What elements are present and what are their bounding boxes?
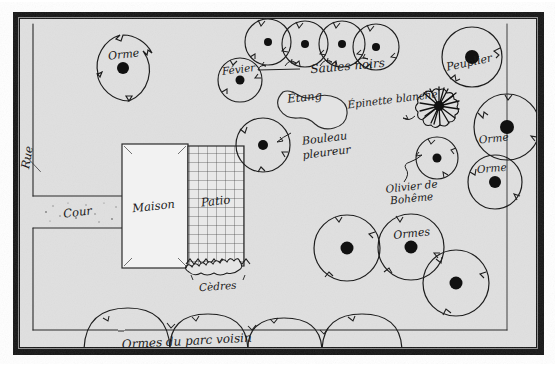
tree-trunk-dot	[433, 154, 442, 163]
maison: Maison	[122, 144, 188, 268]
tree-trunk-dot	[434, 101, 444, 111]
tree-trunk-dot	[450, 277, 463, 290]
tree-trunk-dot	[236, 76, 245, 85]
site-plan-page: Rue Cour Maison	[0, 0, 555, 369]
tree-trunk-dot	[264, 38, 272, 46]
tree-trunk-dot	[338, 40, 346, 48]
tree-trunk-dot	[258, 140, 268, 150]
tree-trunk-dot	[489, 176, 501, 188]
tree-trunk-dot	[341, 242, 354, 255]
tree-trunk-dot	[301, 40, 309, 48]
tree-trunk-dot	[405, 241, 418, 254]
patio: Patio	[188, 146, 244, 266]
tree-trunk-dot	[117, 62, 129, 74]
site-plan-canvas: Rue Cour Maison	[0, 0, 555, 369]
tree-trunk-dot	[372, 43, 380, 51]
